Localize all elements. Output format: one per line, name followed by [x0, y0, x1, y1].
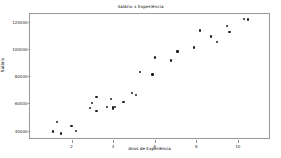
y-axis-tick: [28, 103, 31, 104]
chart-figure: Salário x Experiência Salário 2468104000…: [0, 0, 281, 158]
data-point: [135, 94, 137, 96]
plot-axes: 246810400006000080000100000120000: [29, 13, 270, 139]
data-point: [247, 18, 249, 20]
y-axis-tick: [28, 131, 31, 132]
x-axis-tick: [113, 140, 114, 143]
y-axis-tick-label: 40000: [15, 128, 28, 133]
data-point: [89, 107, 91, 109]
data-point: [210, 35, 212, 37]
y-axis-tick-label: 100000: [12, 47, 27, 52]
y-axis-label: Salário: [0, 58, 6, 72]
chart-title: Salário x Experiência: [0, 4, 281, 10]
x-axis-tick: [238, 140, 239, 143]
data-point: [139, 71, 141, 73]
x-axis-tick: [196, 140, 197, 143]
data-point: [131, 92, 133, 94]
data-point: [243, 18, 245, 20]
data-point: [114, 106, 116, 108]
x-axis-label: Anos de Experiência: [29, 146, 270, 152]
data-point: [154, 56, 156, 58]
data-point: [151, 73, 153, 75]
data-point: [56, 121, 58, 123]
data-point: [75, 130, 77, 132]
y-axis-tick: [28, 49, 31, 50]
y-axis-tick: [28, 76, 31, 77]
data-point: [216, 41, 218, 43]
data-point: [170, 59, 172, 61]
data-point: [70, 125, 72, 127]
scatter-plot-area: [30, 14, 269, 138]
data-point: [95, 96, 97, 98]
y-axis-tick-label: 60000: [15, 101, 28, 106]
data-point: [226, 25, 228, 27]
data-point: [228, 31, 230, 33]
data-point: [95, 110, 97, 112]
y-axis-tick-label: 80000: [15, 74, 28, 79]
x-axis-tick: [155, 140, 156, 143]
data-point: [193, 46, 195, 48]
y-axis-tick: [28, 22, 31, 23]
data-point: [110, 98, 112, 100]
data-point: [106, 106, 108, 108]
data-point: [199, 29, 201, 31]
data-point: [52, 130, 54, 132]
y-axis-tick-label: 120000: [12, 20, 27, 25]
data-point: [91, 102, 93, 104]
data-point: [122, 101, 124, 103]
data-point: [60, 132, 62, 134]
x-axis-tick: [72, 140, 73, 143]
data-point: [176, 50, 178, 52]
